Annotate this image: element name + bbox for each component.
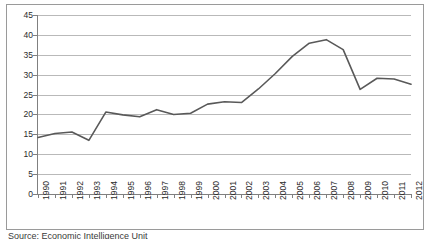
- y-tick-mark-30: [33, 75, 37, 76]
- y-tick-label-35: 35: [7, 51, 33, 60]
- x-tick-mark-2001: [225, 194, 226, 198]
- y-tick-label-25: 25: [7, 91, 33, 100]
- y-tick-label-30: 30: [7, 71, 33, 80]
- x-tick-mark-2008: [343, 194, 344, 198]
- x-tick-mark-2003: [258, 194, 259, 198]
- x-tick-mark-1996: [140, 194, 141, 198]
- y-tick-mark-5: [33, 174, 37, 175]
- x-tick-mark-2007: [326, 194, 327, 198]
- x-tick-mark-2000: [208, 194, 209, 198]
- x-tick-mark-2005: [292, 194, 293, 198]
- y-tick-label-20: 20: [7, 110, 33, 119]
- series-1-polyline: [38, 40, 411, 141]
- x-tick-mark-2004: [275, 194, 276, 198]
- x-tick-mark-1997: [157, 194, 158, 198]
- y-tick-label-0: 0: [7, 190, 33, 199]
- data-series-line: [38, 15, 411, 194]
- x-tick-mark-2002: [241, 194, 242, 198]
- y-tick-label-45: 45: [7, 11, 33, 20]
- x-tick-mark-1994: [106, 194, 107, 198]
- x-tick-mark-2010: [377, 194, 378, 198]
- x-tick-mark-1990: [38, 194, 39, 198]
- chart-caption: Source: Economic Intelligence Unit: [8, 231, 148, 239]
- y-tick-mark-40: [33, 35, 37, 36]
- y-axis-labels: 051015202530354045: [0, 0, 33, 239]
- y-tick-mark-10: [33, 154, 37, 155]
- y-tick-mark-0: [33, 194, 37, 195]
- y-tick-label-5: 5: [7, 170, 33, 179]
- y-tick-mark-15: [33, 134, 37, 135]
- chart-figure: 051015202530354045 199019911992199319941…: [0, 0, 433, 239]
- y-tick-label-40: 40: [7, 31, 33, 40]
- y-tick-mark-25: [33, 95, 37, 96]
- x-tick-mark-1999: [191, 194, 192, 198]
- y-tick-label-10: 10: [7, 150, 33, 159]
- x-tick-mark-2012: [411, 194, 412, 198]
- x-tick-mark-1992: [72, 194, 73, 198]
- x-tick-mark-2006: [309, 194, 310, 198]
- x-tick-mark-2009: [360, 194, 361, 198]
- x-tick-mark-1991: [55, 194, 56, 198]
- y-tick-mark-45: [33, 15, 37, 16]
- y-tick-mark-20: [33, 114, 37, 115]
- x-tick-mark-1998: [174, 194, 175, 198]
- x-tick-mark-1993: [89, 194, 90, 198]
- y-tick-mark-35: [33, 55, 37, 56]
- y-tick-label-15: 15: [7, 130, 33, 139]
- x-tick-mark-1995: [123, 194, 124, 198]
- x-tick-label-2012: 2012: [415, 181, 424, 200]
- x-tick-mark-2011: [394, 194, 395, 198]
